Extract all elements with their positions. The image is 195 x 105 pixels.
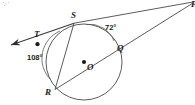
angle-arc-108 — [42, 31, 60, 79]
tangent-line-segment-ps — [74, 2, 193, 23]
point-label-r: R — [45, 88, 51, 97]
point-dot-o — [82, 60, 86, 64]
point-label-o: O — [87, 63, 94, 72]
point-label-t: T — [34, 30, 40, 39]
point-label-q: Q — [117, 44, 124, 53]
angle-label-108: 108° — [27, 54, 43, 62]
point-label-s: S — [71, 11, 76, 20]
geometry-diagram: T S Q O R P 72° 108° — [0, 0, 195, 105]
point-dot-t — [35, 42, 39, 46]
tangent-line-ray-st — [11, 23, 74, 45]
point-label-p: P — [191, 0, 195, 9]
angle-label-72: 72° — [105, 24, 116, 32]
